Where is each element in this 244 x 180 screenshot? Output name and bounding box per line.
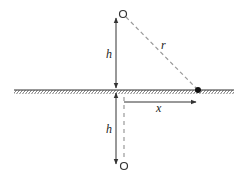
source-point-icon [120, 11, 127, 18]
image-source-diagram: h r x h [0, 0, 244, 180]
diagram-svg: h r x h [0, 0, 244, 180]
ground-surface [14, 90, 234, 94]
lower-height-label: h [106, 122, 112, 136]
distance-label: r [161, 38, 166, 52]
observation-point-icon [195, 87, 201, 93]
image-point-icon [121, 163, 128, 170]
horizontal-distance-label: x [155, 101, 162, 115]
upper-height-label: h [106, 47, 112, 61]
distance-dashed-line [126, 17, 197, 89]
